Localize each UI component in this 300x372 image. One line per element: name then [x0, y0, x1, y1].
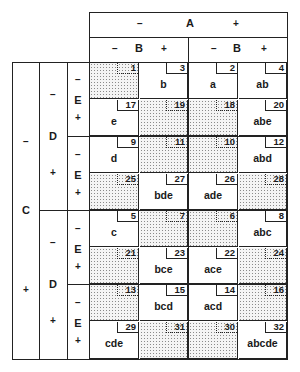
treatment-cell: 23bce — [140, 248, 188, 284]
treatment-cell: 1 — [90, 63, 139, 99]
treatment-cell: 27bde — [140, 174, 188, 210]
treatment-cell: 13 — [90, 285, 139, 321]
grid-line — [12, 359, 288, 360]
run-number: 16 — [265, 285, 286, 296]
run-number: 22 — [216, 248, 237, 259]
factor-a-label: A — [180, 18, 200, 29]
factor-d-label-1: D — [43, 131, 63, 142]
run-number: 19 — [166, 100, 187, 111]
treatment-cell: 21 — [90, 248, 139, 284]
factor-a-plus: + — [226, 19, 246, 29]
run-number: 9 — [117, 137, 138, 148]
treatment-cell: 3b — [140, 63, 188, 99]
run-number: 7 — [166, 211, 187, 222]
treatment-combination: ace — [189, 263, 237, 275]
factor-b-label-right: B — [227, 43, 247, 54]
factor-e-minus-3: − — [68, 224, 88, 234]
treatment-combination: a — [189, 78, 237, 90]
treatment-combination: abd — [239, 152, 286, 164]
run-number: 1 — [117, 63, 138, 74]
run-number: 12 — [265, 137, 286, 148]
factor-d-plus-2: + — [43, 316, 63, 326]
treatment-cell: 7 — [140, 211, 188, 247]
treatment-cell: 26ade — [189, 174, 238, 210]
treatment-cell: 15bcd — [140, 285, 188, 321]
grid-line — [39, 62, 40, 360]
treatment-cell: 32abcde — [239, 322, 287, 359]
factor-d-minus-2: − — [43, 238, 63, 248]
run-number: 4 — [265, 63, 286, 74]
treatment-combination: acd — [189, 300, 237, 312]
factor-e-label-1: E — [68, 95, 88, 106]
run-number: 20 — [265, 100, 286, 111]
treatment-combination: bde — [140, 189, 187, 201]
treatment-combination: bcd — [140, 300, 187, 312]
factor-c-minus: − — [16, 137, 36, 147]
treatment-cell: 30 — [189, 322, 238, 359]
grid-line — [12, 62, 13, 360]
treatment-combination: e — [90, 115, 138, 127]
factor-e-plus-2: + — [68, 188, 88, 198]
grid-line — [89, 12, 288, 13]
treatment-cell: 14acd — [189, 285, 238, 321]
factor-e-minus-1: − — [68, 75, 88, 85]
treatment-cell: 17e — [90, 100, 139, 136]
run-number: 15 — [166, 285, 187, 296]
treatment-cell: 22ace — [189, 248, 238, 284]
run-number: 21 — [117, 248, 138, 259]
factor-b-plus-left: + — [154, 44, 174, 54]
run-number: 26 — [216, 174, 237, 185]
run-number: 11 — [166, 137, 187, 148]
treatment-cell: 25 — [90, 174, 139, 210]
treatment-combination: ab — [239, 78, 286, 90]
factor-c-plus: + — [16, 285, 36, 295]
treatment-cell: 5c — [90, 211, 139, 247]
treatment-cell: 8abc — [239, 211, 287, 247]
treatment-cell: 19 — [140, 100, 188, 136]
treatment-cell: 6 — [189, 211, 238, 247]
treatment-cell: 12abd — [239, 137, 287, 173]
treatment-cell: 29cde — [90, 322, 139, 359]
treatment-combination: d — [90, 152, 138, 164]
treatment-cell: 11 — [140, 137, 188, 173]
factor-e-plus-3: + — [68, 262, 88, 272]
run-number: 14 — [216, 285, 237, 296]
treatment-combination: ade — [189, 189, 237, 201]
factor-d-label-2: D — [43, 279, 63, 290]
run-number: 28 — [265, 174, 286, 185]
run-number: 32 — [265, 322, 286, 333]
grid-line — [67, 62, 68, 360]
treatment-cell: 24 — [239, 248, 287, 284]
factor-b-minus-left: − — [105, 44, 125, 54]
run-number: 6 — [216, 211, 237, 222]
treatment-cell: 10 — [189, 137, 238, 173]
treatment-combination: abcde — [239, 337, 286, 349]
run-number: 18 — [216, 100, 237, 111]
factor-e-minus-4: − — [68, 298, 88, 308]
factor-e-label-4: E — [68, 318, 88, 329]
run-number: 8 — [265, 211, 286, 222]
run-number: 5 — [117, 211, 138, 222]
factor-d-plus-1: + — [43, 168, 63, 178]
treatment-combination: abe — [239, 115, 286, 127]
factor-b-plus-right: + — [254, 44, 274, 54]
treatment-combination: bce — [140, 263, 187, 275]
factor-e-minus-2: − — [68, 150, 88, 160]
run-number: 31 — [166, 322, 187, 333]
treatment-combination: b — [140, 78, 187, 90]
treatment-combination: cde — [90, 337, 138, 349]
run-number: 24 — [265, 248, 286, 259]
factor-e-plus-1: + — [68, 113, 88, 123]
treatment-cell: 20abe — [239, 100, 287, 136]
factor-b-label-left: B — [129, 43, 149, 54]
treatment-cell: 18 — [189, 100, 238, 136]
run-number: 23 — [166, 248, 187, 259]
run-number: 27 — [166, 174, 187, 185]
factor-d-minus-1: − — [43, 90, 63, 100]
treatment-combination: abc — [239, 226, 286, 238]
grid-line — [287, 12, 288, 360]
run-number: 13 — [117, 285, 138, 296]
treatment-combination: c — [90, 226, 138, 238]
treatment-cell: 2a — [189, 63, 238, 99]
treatment-cell: 28 — [239, 174, 287, 210]
